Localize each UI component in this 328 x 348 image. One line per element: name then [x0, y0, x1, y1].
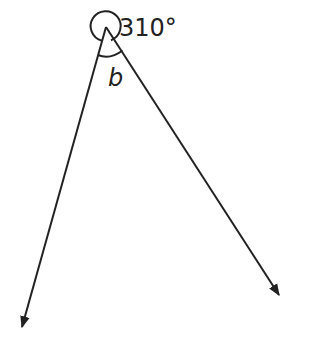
- reflex-angle-label: 310°: [119, 14, 177, 42]
- interior-angle-arc: [98, 51, 123, 57]
- right-ray: [106, 27, 279, 295]
- left-ray: [22, 27, 106, 327]
- angle-diagram: 310° b: [0, 0, 328, 348]
- interior-angle-label: b: [108, 64, 123, 92]
- reflex-angle-arc: [91, 11, 121, 41]
